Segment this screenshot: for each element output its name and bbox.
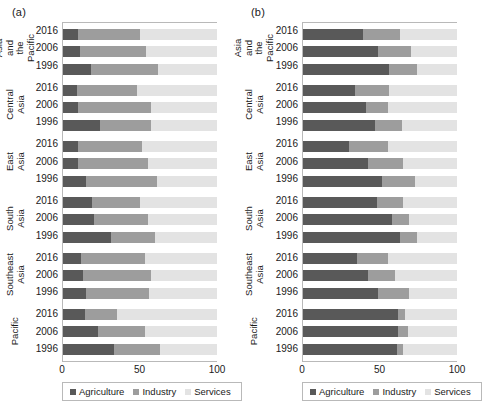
bar-segment-industry	[83, 270, 151, 281]
y-year-label: 1996	[36, 286, 58, 297]
bar-row[interactable]	[63, 309, 217, 320]
bar-segment-industry	[78, 29, 140, 40]
bar-row[interactable]	[303, 176, 457, 187]
bar-segment-agriculture	[303, 232, 400, 243]
bar-segment-services	[415, 176, 457, 187]
bar-row[interactable]	[63, 102, 217, 113]
bar-segment-services	[408, 326, 457, 337]
bar-row[interactable]	[63, 344, 217, 355]
bar-row[interactable]	[303, 46, 457, 57]
bar-group	[63, 138, 217, 190]
y-group-3: East Asia201620061996	[0, 135, 62, 187]
bar-row[interactable]	[303, 120, 457, 131]
bar-row[interactable]	[63, 197, 217, 208]
legend-item[interactable]: Services	[185, 386, 230, 397]
y-year-label: 2016	[276, 252, 298, 263]
y-year-label: 2016	[36, 82, 58, 93]
y-group-title-text: Central Asia	[5, 89, 26, 120]
bar-row[interactable]	[303, 141, 457, 152]
y-year-label: 1996	[276, 286, 298, 297]
bar-row[interactable]	[63, 176, 217, 187]
bar-row[interactable]	[303, 344, 457, 355]
bar-segment-agriculture	[63, 176, 86, 187]
bar-row[interactable]	[303, 102, 457, 113]
bar-segment-industry	[398, 326, 407, 337]
y-year-label: 2006	[276, 326, 298, 337]
bar-segment-industry	[94, 214, 148, 225]
legend-item[interactable]: Agriculture	[70, 386, 124, 397]
bar-row[interactable]	[63, 253, 217, 264]
bar-row[interactable]	[303, 309, 457, 320]
legend-item[interactable]: Agriculture	[310, 386, 364, 397]
bar-segment-industry	[366, 102, 388, 113]
bar-row[interactable]	[303, 197, 457, 208]
bar-segment-industry	[80, 46, 146, 57]
bar-row[interactable]	[63, 270, 217, 281]
bar-segment-industry	[98, 326, 144, 337]
bar-segment-agriculture	[303, 158, 368, 169]
bar-segment-agriculture	[63, 253, 81, 264]
bar-row[interactable]	[63, 214, 217, 225]
x-tick-label: 0	[59, 364, 65, 375]
bar-row[interactable]	[63, 158, 217, 169]
bar-segment-agriculture	[63, 102, 78, 113]
y-group-title: South Asia	[2, 192, 28, 244]
bar-row[interactable]	[303, 288, 457, 299]
bar-segment-services	[140, 197, 217, 208]
y-group-title: Pacific	[241, 305, 267, 357]
legend-item[interactable]: Industry	[373, 386, 416, 397]
y-year-label: 2016	[36, 195, 58, 206]
legend-item[interactable]: Industry	[133, 386, 176, 397]
bar-row[interactable]	[303, 214, 457, 225]
bar-segment-services	[157, 176, 217, 187]
y-year-label: 2006	[276, 212, 298, 223]
bar-segment-industry	[100, 120, 151, 131]
bar-row[interactable]	[63, 120, 217, 131]
bar-row[interactable]	[63, 85, 217, 96]
bar-row[interactable]	[63, 64, 217, 75]
bar-row[interactable]	[303, 64, 457, 75]
bar-segment-services	[405, 309, 457, 320]
y-year-labels: 201620061996	[36, 79, 58, 131]
y-year-labels: 201620061996	[276, 79, 298, 131]
bar-row[interactable]	[63, 29, 217, 40]
y-year-label: 1996	[276, 60, 298, 71]
legend-item[interactable]: Services	[425, 386, 470, 397]
panel-a-x-axis: 050100	[62, 362, 217, 378]
bar-row[interactable]	[63, 326, 217, 337]
bar-group	[303, 138, 457, 190]
bar-row[interactable]	[303, 29, 457, 40]
legend-item-label: Agriculture	[319, 386, 364, 397]
bar-row[interactable]	[303, 253, 457, 264]
bar-segment-industry	[86, 288, 149, 299]
bar-segment-industry	[375, 120, 401, 131]
y-group-4: South Asia201620061996	[239, 192, 302, 244]
bar-row[interactable]	[303, 232, 457, 243]
bar-row[interactable]	[63, 141, 217, 152]
bar-segment-services	[402, 120, 457, 131]
y-group-title-text: Central Asia	[244, 89, 265, 120]
y-group-title: South Asia	[241, 192, 267, 244]
bar-segment-services	[148, 158, 217, 169]
bar-segment-agriculture	[63, 85, 77, 96]
bar-row[interactable]	[63, 46, 217, 57]
bar-segment-agriculture	[303, 197, 377, 208]
bar-row[interactable]	[303, 85, 457, 96]
bar-segment-services	[160, 344, 217, 355]
x-tick-label: 100	[449, 364, 466, 375]
y-year-label: 2006	[36, 42, 58, 53]
bar-row[interactable]	[303, 270, 457, 281]
y-year-label: 1996	[36, 230, 58, 241]
panel-b-legend: AgricultureIndustryServices	[302, 382, 482, 401]
bar-row[interactable]	[303, 326, 457, 337]
bar-group	[303, 306, 457, 358]
y-group-5: Southeast Asia201620061996	[0, 249, 62, 301]
bar-row[interactable]	[63, 288, 217, 299]
bar-segment-agriculture	[63, 197, 92, 208]
bar-row[interactable]	[63, 232, 217, 243]
y-year-label: 2016	[36, 25, 58, 36]
y-group-title-text: South Asia	[5, 205, 26, 231]
bar-segment-agriculture	[303, 309, 398, 320]
bar-row[interactable]	[303, 158, 457, 169]
bar-group	[303, 250, 457, 302]
